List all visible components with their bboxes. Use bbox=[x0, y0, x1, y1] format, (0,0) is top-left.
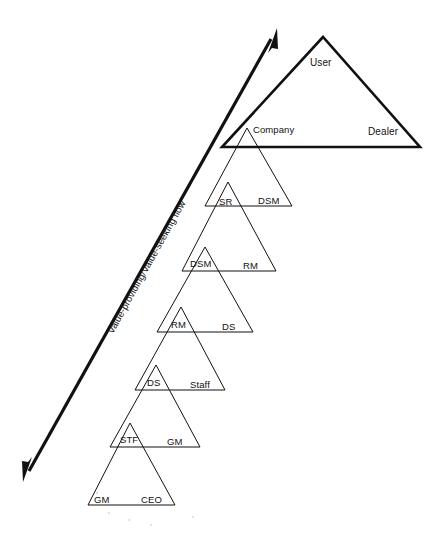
label-ds-level3: DS bbox=[222, 321, 235, 332]
scan-speckle bbox=[96, 492, 98, 494]
scan-speckle bbox=[128, 519, 130, 521]
diagram-canvas: Value-providing/Value-seeking flow User … bbox=[0, 0, 442, 535]
label-ceo: CEO bbox=[141, 494, 162, 505]
scan-speckle bbox=[150, 524, 152, 526]
diagram-vector-layer bbox=[0, 0, 442, 535]
label-stf: STF bbox=[120, 434, 138, 445]
scan-speckle bbox=[108, 512, 110, 514]
label-gm-level5: GM bbox=[167, 436, 183, 447]
label-gm-bottom: GM bbox=[94, 494, 110, 505]
label-user: User bbox=[310, 57, 332, 68]
label-staff: Staff bbox=[190, 379, 210, 390]
label-dsm-level3: DSM bbox=[190, 258, 211, 269]
label-sr: SR bbox=[219, 196, 232, 207]
label-rm-level4: RM bbox=[171, 319, 186, 330]
label-dealer: Dealer bbox=[368, 126, 398, 137]
label-dsm-level1: DSM bbox=[258, 195, 279, 206]
label-rm-level2: RM bbox=[243, 260, 258, 271]
scan-speckle bbox=[192, 516, 194, 518]
label-company: Company bbox=[253, 124, 294, 135]
label-ds-level5: DS bbox=[147, 377, 160, 388]
